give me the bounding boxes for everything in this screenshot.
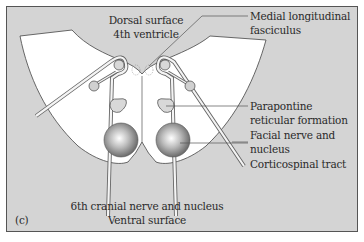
label-mlf-line1: Medial longitudinal [250,10,350,23]
label-pprf-line2: reticular formation [250,114,348,127]
label-sixth-nerve: 6th cranial nerve and nucleus [62,200,232,213]
label-corticospinal: Corticospinal tract [250,158,346,171]
pons-cross-section-figure: Dorsal surface 4th ventricle Medial long… [6,6,358,232]
corticospinal-tract-left [104,123,138,157]
label-mlf-line2: fasciculus [250,24,301,37]
label-pprf-line1: Parapontine [250,100,312,113]
abducens-nucleus-left [114,60,124,70]
label-facial-line1: Facial nerve and [250,129,335,142]
label-fourth-ventricle: 4th ventricle [86,28,206,41]
corticospinal-tract-right [156,123,190,157]
label-facial-line2: nucleus [250,143,290,156]
abducens-nucleus-right [160,60,170,70]
label-ventral-surface: Ventral surface [62,214,232,227]
panel-label: (c) [15,214,28,227]
label-dorsal-surface: Dorsal surface [86,14,206,27]
